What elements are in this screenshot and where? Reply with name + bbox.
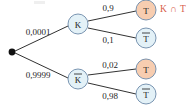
- edge-label-k-to-t-not: 0,1: [102, 35, 113, 45]
- tree-svg-canvas: K K T T T T 0,0001 0,9999 0,9 0,1 0,02 0…: [0, 0, 195, 105]
- root-node-dot: [9, 49, 16, 56]
- node-t-not-top-label: T: [143, 34, 149, 44]
- edge-label-k-not-to-t: 0,02: [102, 60, 118, 70]
- node-k-label: K: [75, 20, 82, 30]
- scan-artifact: [34, 1, 45, 4]
- edge-label-root-to-k: 0,0001: [26, 27, 51, 37]
- node-k-not-label: K: [75, 75, 82, 85]
- edge-label-k-to-t: 0,9: [102, 3, 114, 13]
- probability-tree-diagram: K K T T T T 0,0001 0,9999 0,9 0,1 0,02 0…: [0, 0, 195, 105]
- edge-label-root-to-k-not: 0,9999: [26, 70, 51, 80]
- node-t-not-bottom-label: T: [143, 90, 149, 100]
- edge-label-k-not-to-t-not: 0,98: [102, 91, 118, 101]
- node-t-top-label: T: [143, 6, 149, 16]
- node-t-bottom-label: T: [143, 65, 149, 75]
- intersection-annotation: K ∩ T: [160, 4, 186, 14]
